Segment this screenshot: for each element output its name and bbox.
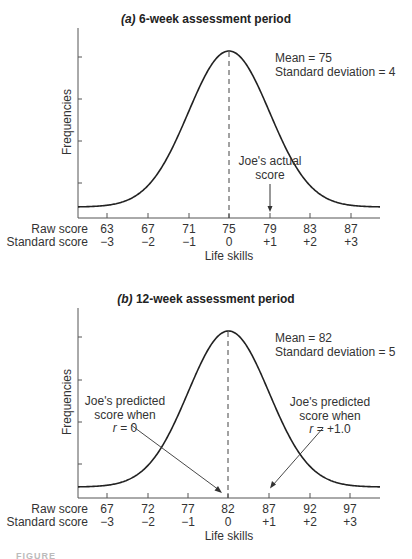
standard-tick: −2 <box>133 515 163 529</box>
raw-tick: 97 <box>335 502 365 516</box>
chart-panel-a: (a) 6-week assessment period Mean <box>0 0 412 270</box>
figure-caption-fragment: FIGURE <box>16 551 56 559</box>
sd-text: Standard deviation = 5 <box>275 346 395 360</box>
annotation-line: Joe's predicted <box>280 396 380 410</box>
y-axis-label: Frequencies <box>60 82 74 162</box>
annotation-line: score when <box>75 409 175 423</box>
x-axis-label: Life skills <box>0 529 412 543</box>
predicted-r0-annotation: Joe's predicted score when r = 0 <box>75 395 175 436</box>
y-ticks <box>78 57 82 183</box>
standard-tick: −3 <box>92 515 122 529</box>
annotation-line: r = 0 <box>75 422 175 436</box>
standard-tick: −3 <box>92 235 122 249</box>
x-axis-label: Life skills <box>0 249 412 263</box>
annotation-line: score <box>230 169 310 183</box>
standard-tick: +2 <box>295 515 325 529</box>
standard-score-label: Standard score <box>0 515 88 529</box>
annotation-line: score when <box>280 410 380 424</box>
annotation-line: Joe's actual <box>230 155 310 169</box>
standard-score-label: Standard score <box>0 235 88 249</box>
predicted-r1-arrow <box>273 428 323 485</box>
raw-tick: 87 <box>336 222 366 236</box>
predicted-r1-annotation: Joe's predicted score when r = +1.0 <box>280 396 380 437</box>
raw-tick: 79 <box>255 222 285 236</box>
standard-tick: 0 <box>214 235 244 249</box>
standard-tick: −1 <box>173 515 203 529</box>
annotation-line: r = +1.0 <box>280 423 380 437</box>
actual-score-annotation: Joe's actual score <box>230 155 310 182</box>
mean-text: Mean = 82 <box>275 332 332 346</box>
standard-tick: +3 <box>336 235 366 249</box>
annotation-text: = +1.0 <box>313 422 350 436</box>
raw-tick: 67 <box>133 222 163 236</box>
y-axis-label: Frequencies <box>60 362 74 442</box>
raw-tick: 83 <box>295 222 325 236</box>
arrowhead <box>268 206 273 212</box>
raw-tick: 72 <box>133 502 163 516</box>
raw-score-label: Raw score <box>0 502 88 516</box>
annotation-line: Joe's predicted <box>75 395 175 409</box>
raw-tick: 75 <box>214 222 244 236</box>
raw-tick: 71 <box>174 222 204 236</box>
mean-text: Mean = 75 <box>275 52 332 66</box>
standard-tick: −1 <box>174 235 204 249</box>
standard-tick: −2 <box>133 235 163 249</box>
raw-score-label: Raw score <box>0 222 88 236</box>
standard-tick: +3 <box>335 515 365 529</box>
standard-tick: +1 <box>255 235 285 249</box>
standard-tick: 0 <box>213 515 243 529</box>
raw-tick: 82 <box>213 502 243 516</box>
annotation-text: = 0 <box>117 421 137 435</box>
raw-tick: 67 <box>92 502 122 516</box>
raw-tick: 87 <box>254 502 284 516</box>
chart-panel-b: (b) 12-week assessment period Mean = 82 … <box>0 280 412 550</box>
raw-tick: 63 <box>92 222 122 236</box>
raw-tick: 77 <box>173 502 203 516</box>
sd-text: Standard deviation = 4 <box>275 66 395 80</box>
standard-tick: +2 <box>295 235 325 249</box>
standard-tick: +1 <box>254 515 284 529</box>
raw-tick: 92 <box>295 502 325 516</box>
